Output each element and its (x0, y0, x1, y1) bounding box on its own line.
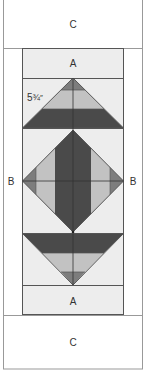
label-left-b: B (8, 176, 15, 187)
dimension-unit: ″ (40, 93, 43, 102)
label-right-b: B (130, 176, 137, 187)
svg-text:5¾″: 5¾″ (27, 92, 43, 103)
dimension-label: 5¾″ (27, 92, 43, 103)
label-bottom-a: A (70, 296, 77, 307)
label-bottom-c: C (69, 337, 76, 348)
label-top-c: C (69, 19, 76, 30)
label-top-a: A (70, 58, 77, 69)
quilt-block-diagram: C A 5¾″ (0, 0, 148, 373)
